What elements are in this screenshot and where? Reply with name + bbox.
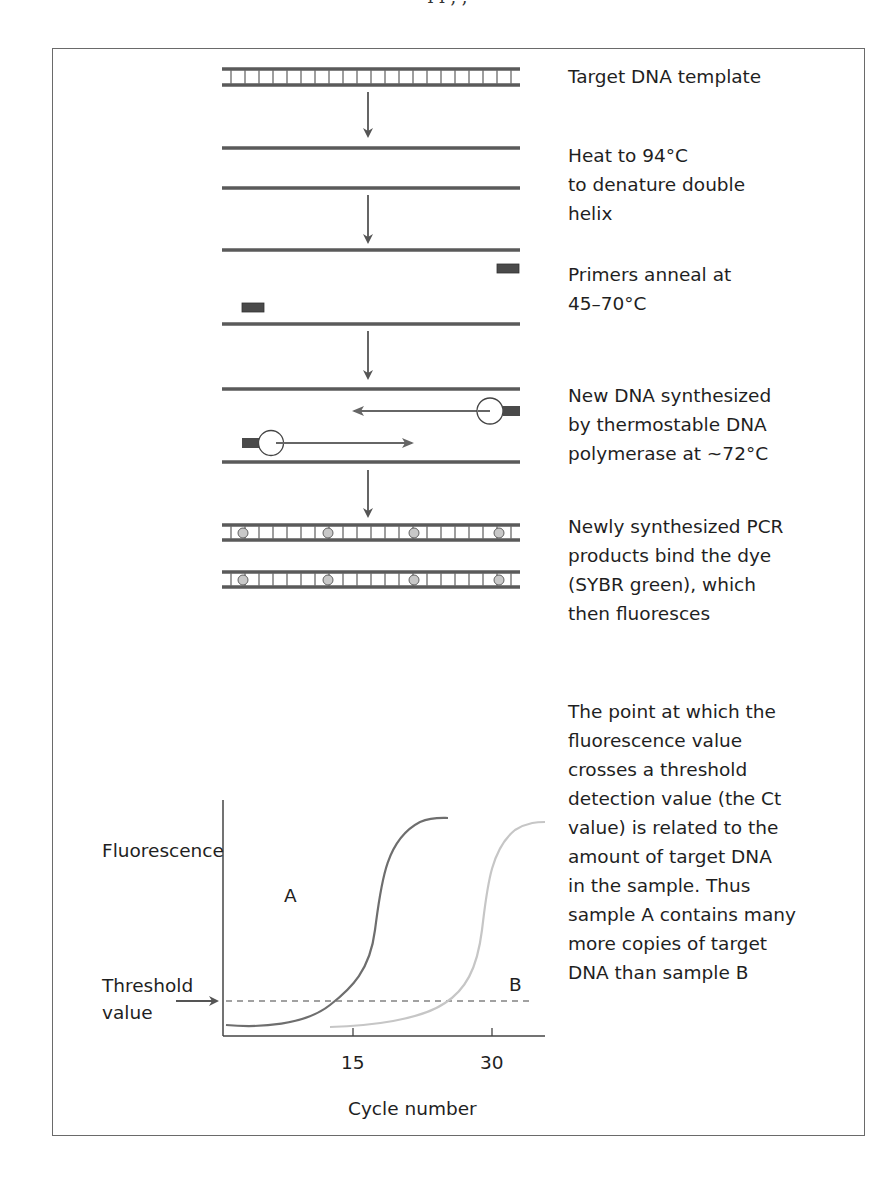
x-tick-label-15: 15 — [341, 1049, 365, 1076]
step-label-extend: New DNA synthesized by thermostable DNA … — [568, 381, 858, 468]
series-b-label: B — [509, 971, 522, 998]
step-label-template: Target DNA template — [568, 62, 858, 91]
ct-explanation: The point at which the fluorescence valu… — [568, 697, 858, 987]
step-label-detect: Newly synthesized PCR products bind the … — [568, 512, 858, 628]
step-label-anneal: Primers anneal at 45–70°C — [568, 260, 858, 318]
primer-left-extended — [242, 438, 259, 448]
y-axis-label: Fluorescence — [102, 837, 224, 864]
pcr-product-ladder-2 — [222, 572, 520, 587]
template-dna-ladder — [222, 69, 520, 85]
primer-left — [242, 303, 264, 312]
amplification-chart — [176, 800, 545, 1036]
step-label-denature: Heat to 94°C to denature double helix — [568, 141, 858, 228]
x-axis-label: Cycle number — [348, 1095, 477, 1122]
primer-right-extended — [503, 406, 520, 416]
primer-right — [497, 264, 519, 273]
denatured-strands — [222, 148, 520, 188]
threshold-label-line2: value — [102, 999, 153, 1026]
threshold-label-line1: Threshold — [102, 972, 193, 999]
series-a-label: A — [284, 882, 297, 909]
curve-a — [226, 818, 448, 1026]
pcr-product-ladder-1 — [222, 525, 520, 540]
extension-strands — [222, 389, 520, 462]
annealing-strands — [222, 250, 520, 324]
x-tick-label-30: 30 — [480, 1049, 504, 1076]
